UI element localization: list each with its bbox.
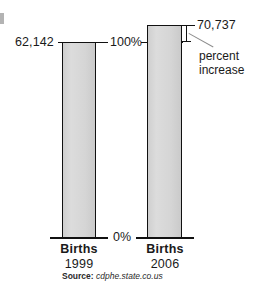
- baseline-2006: [136, 237, 194, 239]
- callout-percent-increase: percent increase: [199, 49, 244, 77]
- bar-fill-1999: [63, 43, 95, 237]
- callout-line-1: percent: [199, 49, 244, 63]
- bar-fill-2006: [148, 26, 181, 237]
- callout-line-2: increase: [199, 63, 244, 77]
- value-tick-1999: [58, 42, 96, 43]
- pct-0-label: 0%: [113, 231, 131, 244]
- bracket-stem: [186, 25, 187, 42]
- baseline-1999: [50, 237, 108, 239]
- bracket-arm-bottom: [182, 41, 191, 42]
- cropped-edge-artifact: [0, 13, 4, 24]
- pct-100-label: 100%: [110, 36, 142, 49]
- category-label-1999-year: 1999: [50, 258, 108, 271]
- bar-births-1999: [62, 42, 96, 238]
- category-label-2006-year: 2006: [136, 258, 194, 271]
- category-label-1999-name: Births: [50, 243, 108, 256]
- bar-chart-figure: 62,142 100% 0% 70,737 percent increase B…: [0, 0, 259, 297]
- bar-births-2006: [147, 25, 182, 238]
- source-value: cdphe.state.co.us: [96, 271, 163, 281]
- value-label-2006: 70,737: [197, 19, 236, 32]
- pct-100-tick-left: [96, 42, 108, 43]
- category-label-2006-name: Births: [136, 243, 194, 256]
- value-label-1999: 62,142: [15, 36, 54, 49]
- source-line: Source: cdphe.state.co.us: [62, 271, 163, 281]
- source-label: Source:: [62, 271, 94, 281]
